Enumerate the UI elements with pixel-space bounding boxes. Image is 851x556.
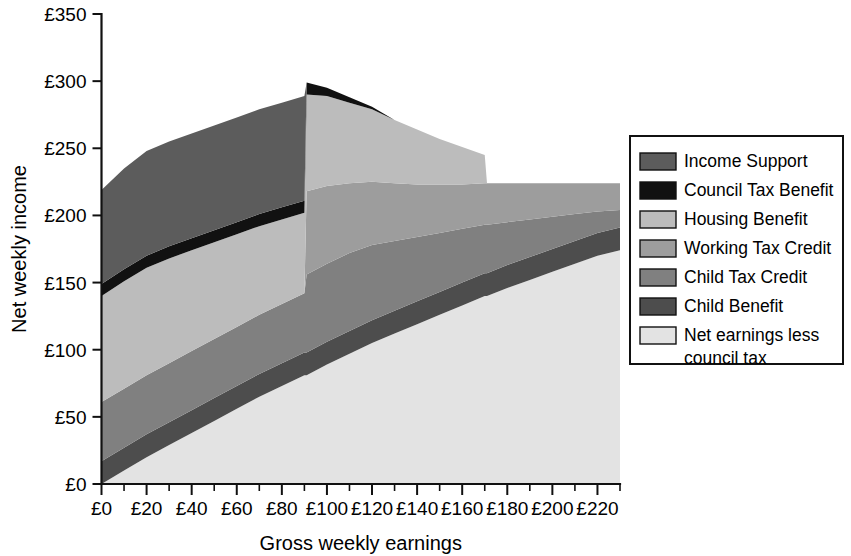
- y-axis-title: Net weekly income: [8, 165, 30, 333]
- y-tick-label: £100: [44, 340, 86, 361]
- legend-swatch: [640, 269, 676, 286]
- legend-label: Child Benefit: [684, 296, 783, 316]
- legend-label: Child Tax Credit: [684, 267, 807, 287]
- x-tick-label: £20: [131, 498, 163, 519]
- stacked-area-chart: £0£20£40£60£80£100£120£140£160£180£200£2…: [0, 0, 851, 556]
- x-tick-label: £200: [531, 498, 573, 519]
- x-tick-label: £80: [266, 498, 298, 519]
- legend-label: Income Support: [684, 151, 808, 171]
- legend-swatch: [640, 240, 676, 257]
- legend-swatch: [640, 153, 676, 170]
- legend-item[interactable]: Council Tax Benefit: [640, 180, 834, 200]
- y-tick-label: £250: [44, 138, 86, 159]
- x-tick-label: £180: [486, 498, 528, 519]
- legend-item[interactable]: Working Tax Credit: [640, 238, 831, 258]
- legend-swatch: [640, 298, 676, 315]
- y-axis-ticks: £0£50£100£150£200£250£300£350: [44, 4, 101, 495]
- x-axis-title: Gross weekly earnings: [260, 532, 462, 554]
- y-tick-label: £200: [44, 205, 86, 226]
- x-tick-label: £220: [576, 498, 618, 519]
- legend-swatch: [640, 327, 676, 344]
- x-tick-label: £160: [441, 498, 483, 519]
- legend-item[interactable]: Child Benefit: [640, 296, 783, 316]
- x-tick-label: £100: [306, 498, 348, 519]
- legend-label: Net earnings less: [684, 325, 819, 345]
- y-tick-label: £0: [65, 474, 86, 495]
- y-tick-label: £50: [55, 407, 87, 428]
- legend-swatch: [640, 211, 676, 228]
- legend-label: Council Tax Benefit: [684, 180, 834, 200]
- chart-series-group: [102, 82, 621, 484]
- x-tick-label: £140: [396, 498, 438, 519]
- legend-label: Housing Benefit: [684, 209, 808, 229]
- y-tick-label: £350: [44, 4, 86, 25]
- x-tick-label: £40: [176, 498, 208, 519]
- legend-swatch: [640, 182, 676, 199]
- legend-label: Working Tax Credit: [684, 238, 831, 258]
- x-tick-label: £120: [351, 498, 393, 519]
- x-axis-ticks: £0£20£40£60£80£100£120£140£160£180£200£2…: [91, 484, 620, 519]
- y-tick-label: £150: [44, 273, 86, 294]
- legend-label-line2: council tax: [684, 348, 767, 368]
- y-tick-label: £300: [44, 71, 86, 92]
- legend-item[interactable]: Housing Benefit: [640, 209, 808, 229]
- legend-item[interactable]: Child Tax Credit: [640, 267, 807, 287]
- chart-page: £0£20£40£60£80£100£120£140£160£180£200£2…: [0, 0, 851, 556]
- chart-legend: Income SupportCouncil Tax BenefitHousing…: [630, 136, 843, 368]
- x-tick-label: £0: [91, 498, 112, 519]
- x-tick-label: £60: [221, 498, 253, 519]
- legend-item[interactable]: Income Support: [640, 151, 808, 171]
